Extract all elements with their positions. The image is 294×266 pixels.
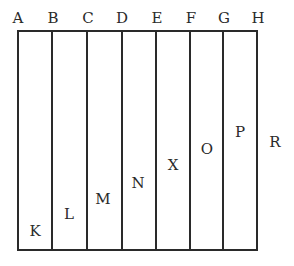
strip-labels: K L M N X O P	[29, 123, 245, 240]
label-o: O	[201, 140, 213, 158]
label-h: H	[251, 9, 264, 27]
label-g: G	[218, 9, 230, 27]
top-labels: A B C D E F G H	[12, 9, 265, 27]
outer-frame	[18, 31, 257, 250]
label-b: B	[47, 9, 58, 27]
label-p: P	[235, 123, 245, 141]
label-n: N	[131, 174, 144, 192]
label-f: F	[186, 9, 196, 27]
label-l: L	[64, 205, 74, 223]
label-k: K	[29, 222, 41, 240]
label-c: C	[82, 9, 93, 27]
vertical-dividers	[52, 31, 223, 250]
label-m: M	[95, 190, 110, 208]
label-r: R	[269, 133, 281, 151]
label-e: E	[152, 9, 163, 27]
label-d: D	[116, 9, 128, 27]
label-x: X	[168, 156, 179, 174]
strip-diagram: A B C D E F G H K L M N X O P R	[0, 0, 294, 266]
label-a: A	[12, 9, 24, 27]
